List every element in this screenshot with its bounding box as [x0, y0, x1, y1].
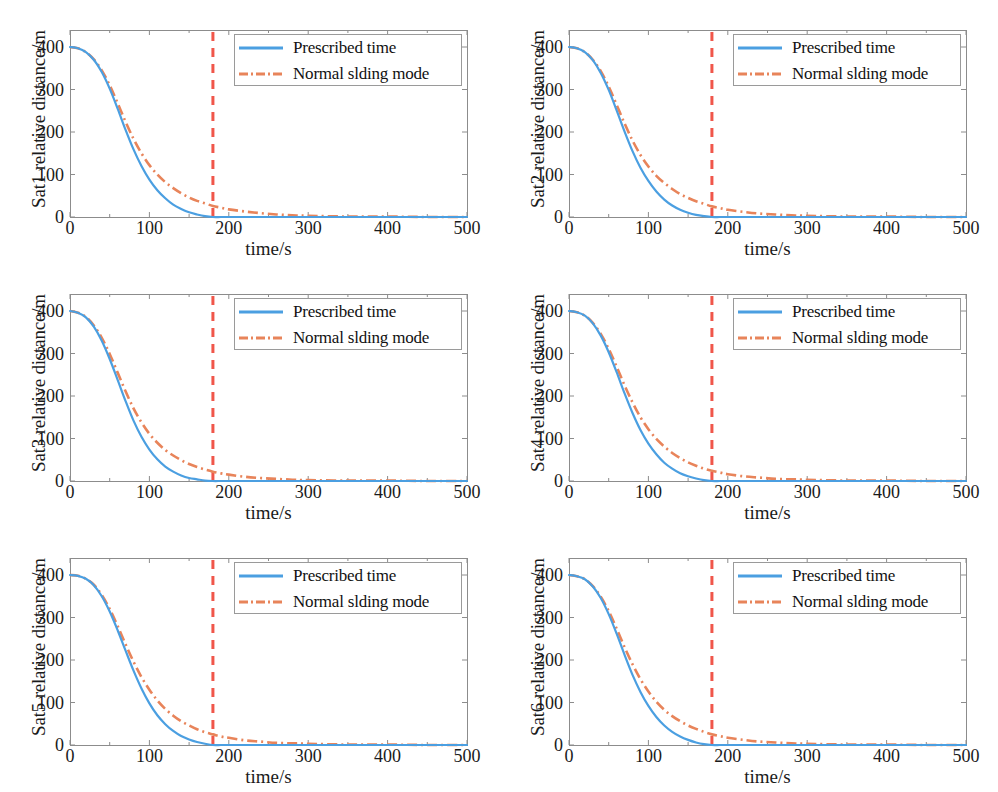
- x-tick-label: 100: [635, 482, 662, 503]
- x-tick-label: 100: [136, 746, 163, 767]
- x-tick-label: 400: [873, 218, 900, 239]
- chart-panel-3: Sat3 relative distance/mtime/s0100200300…: [0, 264, 499, 528]
- x-tick-label: 100: [136, 218, 163, 239]
- chart-panel-6: Sat6 relative distance/mtime/s0100200300…: [499, 528, 998, 792]
- x-tick-label: 200: [714, 746, 741, 767]
- y-tick-label: 400: [0, 37, 64, 58]
- legend-swatch-dashdot-line-icon: [235, 61, 293, 87]
- legend-entry: Prescribed time: [235, 563, 461, 589]
- legend-label: Normal slding mode: [792, 592, 928, 612]
- y-tick-label: 0: [499, 471, 563, 492]
- y-tick-label: 400: [499, 301, 563, 322]
- legend-swatch-dashdot-line-icon: [235, 589, 293, 615]
- legend-label: Normal slding mode: [293, 64, 429, 84]
- x-tick-label: 0: [565, 482, 574, 503]
- legend-label: Prescribed time: [792, 302, 895, 322]
- x-tick-label: 0: [66, 746, 75, 767]
- x-tick-label: 300: [794, 746, 821, 767]
- x-tick-label: 400: [873, 746, 900, 767]
- legend: Prescribed timeNormal slding mode: [733, 34, 961, 86]
- chart-panel-5: Sat5 relative distance/mtime/s0100200300…: [0, 528, 499, 792]
- y-tick-label: 100: [499, 692, 563, 713]
- y-tick-label: 100: [499, 164, 563, 185]
- x-tick-label: 200: [215, 218, 242, 239]
- legend-entry: Normal slding mode: [235, 61, 461, 87]
- legend-swatch-solid-line-icon: [734, 563, 792, 589]
- x-tick-label: 400: [873, 482, 900, 503]
- legend: Prescribed timeNormal slding mode: [733, 562, 961, 614]
- legend: Prescribed timeNormal slding mode: [234, 298, 462, 350]
- y-tick-label: 0: [499, 735, 563, 756]
- y-tick-label: 400: [0, 301, 64, 322]
- legend-label: Prescribed time: [293, 302, 396, 322]
- x-tick-label: 0: [66, 482, 75, 503]
- x-axis-label: time/s: [569, 502, 966, 524]
- legend-entry: Normal slding mode: [734, 325, 960, 351]
- y-tick-label: 200: [0, 122, 64, 143]
- y-tick-label: 200: [499, 650, 563, 671]
- x-axis-label: time/s: [70, 238, 467, 260]
- legend-swatch-dashdot-line-icon: [734, 325, 792, 351]
- x-tick-label: 400: [374, 746, 401, 767]
- y-tick-label: 100: [499, 428, 563, 449]
- legend-entry: Prescribed time: [734, 563, 960, 589]
- legend-swatch-dashdot-line-icon: [235, 325, 293, 351]
- x-tick-label: 100: [635, 746, 662, 767]
- chart-panel-4: Sat4 relative distance/mtime/s0100200300…: [499, 264, 998, 528]
- legend-label: Normal slding mode: [293, 592, 429, 612]
- y-tick-label: 300: [499, 79, 563, 100]
- x-tick-label: 500: [953, 218, 980, 239]
- y-tick-label: 100: [0, 692, 64, 713]
- y-tick-label: 0: [0, 471, 64, 492]
- legend-label: Normal slding mode: [792, 328, 928, 348]
- y-tick-label: 400: [499, 37, 563, 58]
- x-tick-label: 500: [454, 746, 481, 767]
- legend-entry: Normal slding mode: [235, 589, 461, 615]
- legend-label: Normal slding mode: [293, 328, 429, 348]
- x-tick-label: 300: [794, 482, 821, 503]
- legend-swatch-solid-line-icon: [235, 563, 293, 589]
- y-tick-label: 200: [499, 386, 563, 407]
- legend-entry: Normal slding mode: [734, 61, 960, 87]
- y-tick-label: 300: [0, 79, 64, 100]
- y-tick-label: 300: [499, 607, 563, 628]
- x-tick-label: 200: [215, 746, 242, 767]
- x-tick-label: 500: [953, 746, 980, 767]
- y-tick-label: 200: [0, 386, 64, 407]
- x-tick-label: 0: [565, 746, 574, 767]
- legend-entry: Prescribed time: [734, 35, 960, 61]
- legend-entry: Normal slding mode: [235, 325, 461, 351]
- x-tick-label: 500: [454, 482, 481, 503]
- legend-label: Prescribed time: [792, 566, 895, 586]
- x-tick-label: 0: [565, 218, 574, 239]
- y-tick-label: 300: [0, 607, 64, 628]
- x-tick-label: 100: [136, 482, 163, 503]
- x-tick-label: 200: [714, 218, 741, 239]
- x-axis-label: time/s: [569, 238, 966, 260]
- x-tick-label: 400: [374, 218, 401, 239]
- legend: Prescribed timeNormal slding mode: [234, 562, 462, 614]
- legend: Prescribed timeNormal slding mode: [234, 34, 462, 86]
- x-tick-label: 300: [295, 482, 322, 503]
- x-tick-label: 300: [295, 746, 322, 767]
- x-tick-label: 400: [374, 482, 401, 503]
- y-tick-label: 300: [0, 343, 64, 364]
- chart-panel-2: Sat2 relative distance/mtime/s0100200300…: [499, 0, 998, 264]
- x-tick-label: 200: [215, 482, 242, 503]
- y-tick-label: 200: [499, 122, 563, 143]
- legend-label: Prescribed time: [293, 566, 396, 586]
- chart-panel-1: Sat1 relative distance/mtime/s0100200300…: [0, 0, 499, 264]
- legend-swatch-solid-line-icon: [235, 299, 293, 325]
- legend-swatch-solid-line-icon: [235, 35, 293, 61]
- x-tick-label: 0: [66, 218, 75, 239]
- legend-swatch-solid-line-icon: [734, 35, 792, 61]
- x-axis-label: time/s: [70, 502, 467, 524]
- legend: Prescribed timeNormal slding mode: [733, 298, 961, 350]
- y-tick-label: 400: [0, 565, 64, 586]
- figure-grid: Sat1 relative distance/mtime/s0100200300…: [0, 0, 998, 792]
- y-tick-label: 0: [0, 207, 64, 228]
- legend-entry: Prescribed time: [235, 299, 461, 325]
- legend-entry: Prescribed time: [734, 299, 960, 325]
- x-tick-label: 100: [635, 218, 662, 239]
- legend-swatch-dashdot-line-icon: [734, 61, 792, 87]
